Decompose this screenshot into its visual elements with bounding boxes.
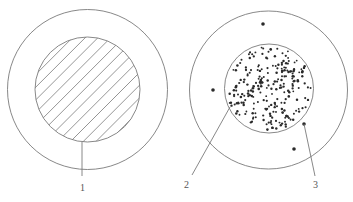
- label-2: 2: [184, 179, 189, 190]
- particle-dot: [261, 22, 265, 26]
- particle-dot: [211, 88, 215, 92]
- leader-line-3: [304, 124, 315, 176]
- left-outer-circle: [8, 10, 168, 170]
- right-figure: 2 3: [184, 11, 348, 190]
- leader-line-2: [192, 107, 230, 175]
- particle-dot: [292, 147, 296, 151]
- right-inner-circle: [225, 44, 314, 133]
- label-3: 3: [313, 179, 318, 190]
- dispersed-particles: [228, 47, 311, 131]
- diagram-canvas: 1 2 3: [0, 0, 353, 202]
- left-figure: 1: [0, 0, 194, 196]
- label-1: 1: [80, 182, 85, 193]
- hatched-core: [0, 0, 194, 196]
